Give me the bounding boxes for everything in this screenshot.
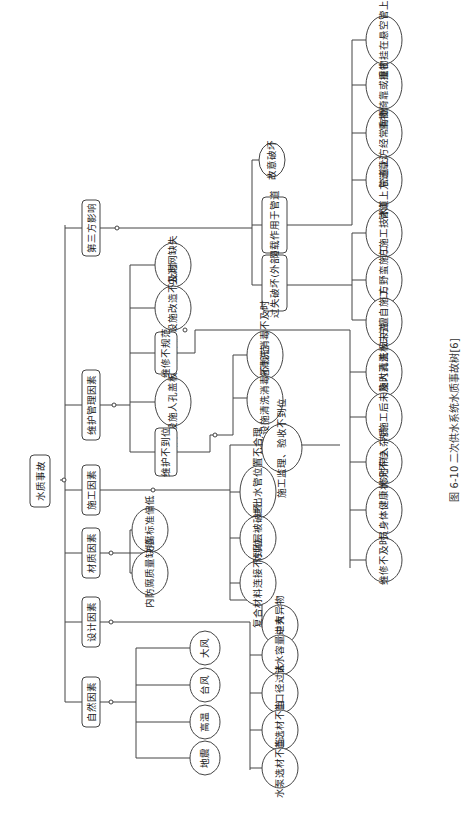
svg-text:施工监理、验收不到位: 施工监理、验收不到位 bbox=[276, 398, 287, 498]
category-third-party: 第三方影响 bbox=[82, 200, 100, 256]
gate-icon bbox=[151, 488, 155, 492]
figure-caption: 图 6-10 二次供水系统水质事故树[6] bbox=[448, 338, 460, 501]
svg-text:水泵选材不当: 水泵选材不当 bbox=[274, 738, 285, 798]
root-node: 水质事故 bbox=[30, 455, 50, 507]
svg-text:自然因素: 自然因素 bbox=[86, 682, 97, 722]
leaf-event: 地震 bbox=[190, 741, 220, 775]
svg-text:大风: 大风 bbox=[199, 638, 210, 658]
event-maintenance-irregular: 维修不规范 bbox=[155, 328, 177, 378]
category-construction: 施工因素 bbox=[82, 465, 100, 515]
svg-text:台风: 台风 bbox=[199, 675, 210, 695]
svg-text:设计因素: 设计因素 bbox=[86, 602, 97, 642]
svg-text:施工因素: 施工因素 bbox=[86, 470, 97, 510]
svg-text:第三方影响: 第三方影响 bbox=[86, 203, 97, 253]
svg-text:维护管理因素: 维护管理因素 bbox=[86, 375, 97, 435]
category-natural: 自然因素 bbox=[82, 677, 100, 727]
gate-icon bbox=[115, 226, 119, 230]
svg-text:过失破坏(外部): 过失破坏(外部) bbox=[269, 250, 280, 317]
root-label: 水质事故 bbox=[35, 461, 46, 501]
svg-text:维修不及时: 维修不及时 bbox=[378, 535, 389, 585]
gate-icon bbox=[109, 551, 113, 555]
construction-leaves: 施工监理、验收不到位 储水设施进出水管位置不合理 内防腐层被破坏 复合材料连接不… bbox=[240, 398, 302, 655]
svg-text:复合材料连接不到位: 复合材料连接不到位 bbox=[252, 538, 263, 628]
gate-icon bbox=[109, 700, 113, 704]
leaf-event: 水泵选材不当 bbox=[262, 738, 298, 798]
category-material: 材质因素 bbox=[82, 528, 100, 578]
leaf-event: 内防腐质量缺陷 bbox=[132, 538, 168, 608]
svg-text:地震: 地震 bbox=[199, 748, 210, 768]
material-leaves: 内防腐标准偏低 内防腐质量缺陷 bbox=[132, 495, 168, 608]
gate-icon bbox=[109, 620, 113, 624]
gate-icon bbox=[213, 433, 217, 437]
svg-text:高温: 高温 bbox=[199, 712, 210, 732]
design-leaves: 设施储水容量过大 管道口径过大 管道选材不当 水泵选材不当 bbox=[262, 615, 298, 798]
event-intentional-damage: 故意破坏 bbox=[259, 140, 285, 180]
gate-icon bbox=[112, 403, 116, 407]
category-design: 设计因素 bbox=[82, 597, 100, 647]
svg-text:材质因素: 材质因素 bbox=[86, 533, 97, 573]
svg-text:维护不到位: 维护不到位 bbox=[160, 427, 171, 477]
svg-text:故意破坏: 故意破坏 bbox=[266, 140, 277, 180]
irregular-children: 储水设施人孔盖板未盖 储水设施内施工后未及时清洗 维修时带入杂质 维修人员身体健… bbox=[366, 322, 402, 585]
natural-leaves: 大风 台风 高温 地震 bbox=[190, 631, 220, 775]
overload-children: 管道上方违章建筑 管道上方经常有重载作用 重物倚靠或撞击立管 重物挂在悬空管上 bbox=[366, 0, 402, 220]
fault-tree-diagram: 水质事故 第三方影响 维护管理因素 施工因素 材质因素 设计因素 自然因素 故意… bbox=[0, 0, 474, 820]
event-maintenance-inadequate: 维护不到位 bbox=[155, 427, 177, 477]
leaf-event: 维修不及时 bbox=[366, 535, 402, 585]
svg-text:维修不规范: 维修不规范 bbox=[160, 328, 171, 378]
gate-icon bbox=[183, 328, 187, 332]
gate-icon bbox=[62, 478, 66, 482]
svg-text:重物挂在悬空管上: 重物挂在悬空管上 bbox=[378, 0, 389, 80]
leaf-event: 高温 bbox=[190, 705, 220, 739]
category-maintenance: 维护管理因素 bbox=[82, 370, 100, 440]
leaf-event: 大风 bbox=[190, 631, 220, 665]
leaf-event: 台风 bbox=[190, 668, 220, 702]
svg-text:内防腐质量缺陷: 内防腐质量缺陷 bbox=[144, 538, 155, 608]
event-overload: 超载作用于管道 bbox=[262, 190, 287, 260]
svg-text:超载作用于管道: 超载作用于管道 bbox=[269, 190, 280, 260]
